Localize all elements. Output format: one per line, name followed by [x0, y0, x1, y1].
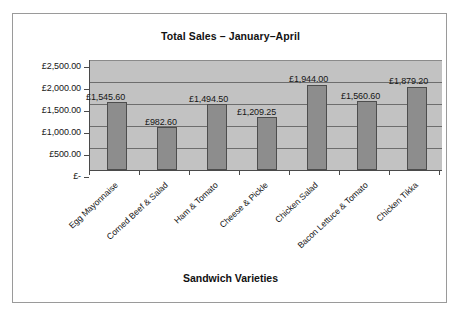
chart-frame: Total Sales – January–April £2,500.00 £2…: [12, 13, 447, 303]
value-label-ham-and-tomato: £1,494.50: [189, 94, 228, 104]
bar-cheese-and-pickle[interactable]: [257, 117, 277, 170]
x-tick-2: [189, 170, 190, 175]
x-axis-category-labels: Egg Mayonnaise Corned Beef & Salad Ham &…: [13, 176, 448, 276]
value-label-chicken-salad: £1,944.00: [289, 74, 328, 84]
x-tick-6: [389, 170, 390, 175]
x-tick-7: [439, 170, 440, 175]
y-tick-label-500: £500.00: [49, 149, 81, 159]
bar-egg-mayonnaise[interactable]: [107, 102, 127, 170]
y-tick-label-2500: £2,500.00: [42, 61, 81, 71]
chart-screenshot: Total Sales – January–April £2,500.00 £2…: [0, 0, 458, 314]
bar-chicken-tikka[interactable]: [407, 87, 427, 170]
x-tick-4: [289, 170, 290, 175]
x-tick-0: [89, 170, 90, 175]
value-label-corned-beef-and-salad: £982.60: [145, 117, 177, 127]
bar-chicken-salad[interactable]: [307, 85, 327, 171]
x-tick-3: [239, 170, 240, 175]
x-tick-5: [339, 170, 340, 175]
value-label-cheese-and-pickle: £1,209.25: [237, 107, 276, 117]
x-tick-1: [139, 170, 140, 175]
y-tick-label-1500: £1,500.00: [42, 105, 81, 115]
value-label-chicken-tikka: £1,879.20: [389, 76, 428, 86]
x-axis-title: Sandwich Varieties: [13, 272, 448, 284]
bar-corned-beef-and-salad[interactable]: [157, 127, 177, 170]
bar-ham-and-tomato[interactable]: [207, 104, 227, 170]
y-tick-label-2000: £2,000.00: [42, 83, 81, 93]
bar-bacon-lettuce-and-tomato[interactable]: [357, 101, 377, 170]
value-label-bacon-lettuce-and-tomato: £1,560.60: [341, 91, 380, 101]
y-tick-label-1000: £1,000.00: [42, 127, 81, 137]
chart-title: Total Sales – January–April: [13, 30, 448, 42]
value-label-egg-mayonnaise: £1,545.60: [86, 92, 125, 102]
